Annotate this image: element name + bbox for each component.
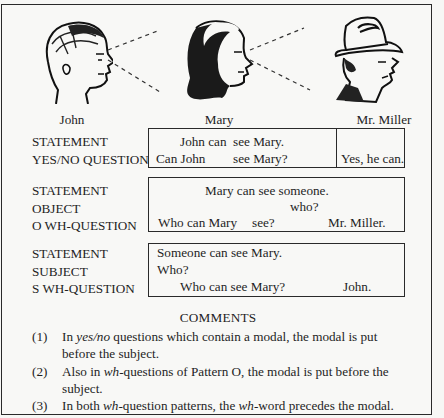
comment-number: (3): [32, 398, 47, 415]
label-yesno-question: YES/NO QUESTION: [32, 151, 149, 169]
label-statement: STATEMENT: [32, 245, 135, 263]
label-s-wh-question: S WH-QUESTION: [32, 280, 135, 298]
statement: Someone can see Mary.: [157, 245, 282, 260]
comment-text: Also in wh-questions of Pattern O, the m…: [62, 364, 402, 397]
label-object: OBJECT: [32, 200, 137, 218]
question-part1: Who can Mary: [158, 215, 237, 230]
comments-title: COMMENTS: [180, 310, 256, 326]
label-o-wh-question: O WH-QUESTION: [32, 217, 137, 235]
statement-subject-modal: John can: [180, 134, 227, 149]
comment-text: In both wh-question patterns, the wh-wor…: [62, 398, 402, 415]
question-part2: can see Mary?: [209, 279, 285, 294]
question-part2: see?: [252, 215, 275, 230]
wh-word: Who?: [157, 262, 189, 277]
comment-text: In yes/no questions which contain a moda…: [62, 329, 402, 362]
character-name-john: John: [60, 112, 85, 127]
character-name-mr-miller: Mr. Miller: [357, 112, 412, 127]
comment-number: (1): [32, 329, 47, 346]
answer: John.: [343, 279, 371, 294]
answer: Yes, he can.: [341, 151, 404, 166]
question-modal-subject: Can John: [156, 151, 205, 166]
question-part1: Who: [180, 279, 206, 294]
answer: Mr. Miller.: [328, 215, 386, 230]
label-statement: STATEMENT: [32, 182, 137, 200]
wh-word: who?: [290, 199, 319, 214]
label-subject: SUBJECT: [32, 263, 135, 281]
sight-lines: [0, 0, 444, 110]
question-rest: see Mary?: [233, 151, 288, 166]
pattern-yesno-labels: STATEMENT YES/NO QUESTION: [32, 133, 149, 168]
pattern-subject-labels: STATEMENT SUBJECT S WH-QUESTION: [32, 245, 135, 298]
label-statement: STATEMENT: [32, 133, 149, 151]
pattern-object-labels: STATEMENT OBJECT O WH-QUESTION: [32, 182, 137, 235]
character-name-mary: Mary: [205, 112, 234, 127]
comment-number: (2): [32, 364, 47, 381]
statement: Mary can see someone.: [205, 183, 329, 198]
statement-rest: see Mary.: [233, 134, 284, 149]
